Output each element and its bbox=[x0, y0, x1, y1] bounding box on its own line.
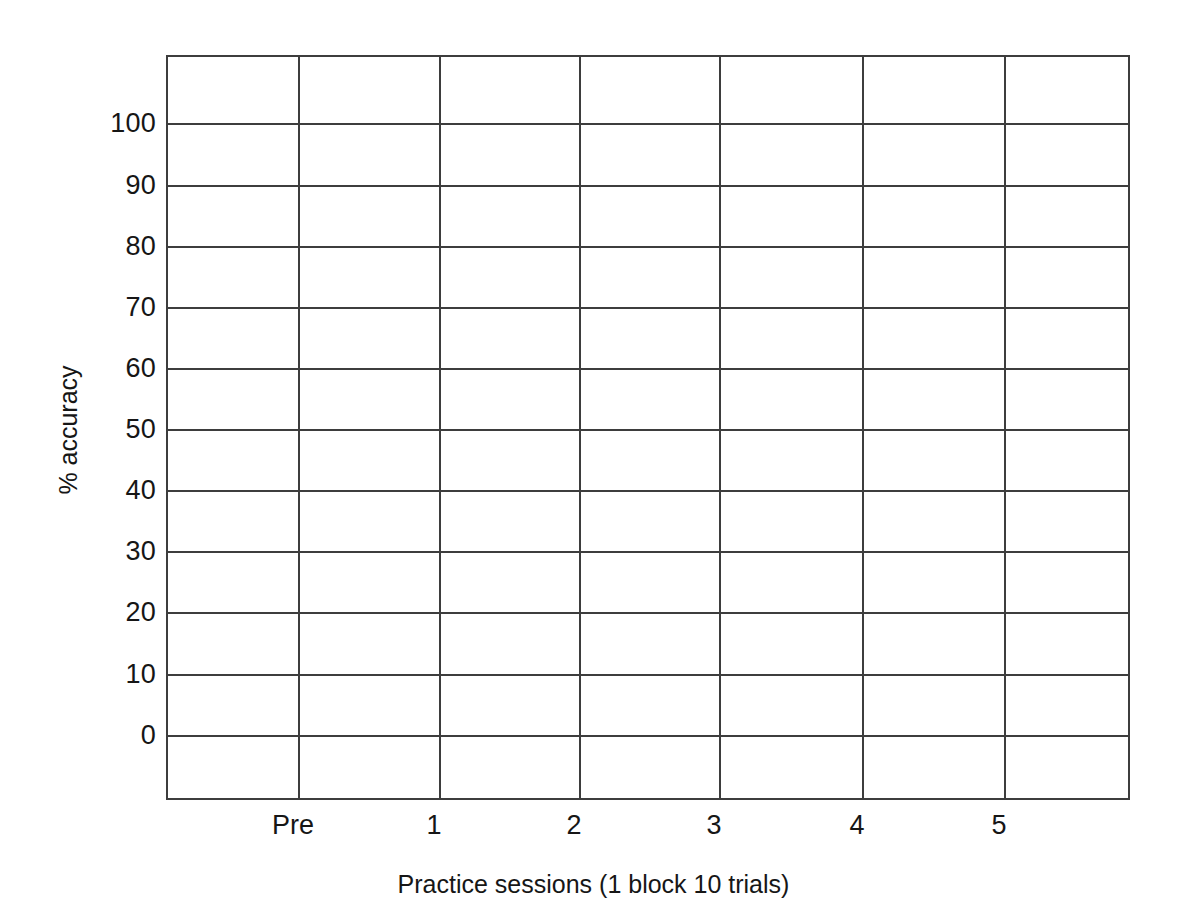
x-tick-label-2: 2 bbox=[566, 812, 581, 839]
x-tick-label-3: 3 bbox=[706, 812, 721, 839]
y-tick-label-80: 80 bbox=[126, 233, 156, 260]
y-tick-label-30: 30 bbox=[126, 538, 156, 565]
gridline-x-5 bbox=[1004, 57, 1006, 798]
gridline-y-100 bbox=[168, 123, 1128, 125]
x-tick-label-pre: Pre bbox=[272, 812, 314, 839]
gridline-y-20 bbox=[168, 612, 1128, 614]
y-tick-label-60: 60 bbox=[126, 355, 156, 382]
gridline-y-60 bbox=[168, 368, 1128, 370]
gridline-x-3 bbox=[719, 57, 721, 798]
plot-area bbox=[166, 55, 1130, 800]
y-tick-label-40: 40 bbox=[126, 477, 156, 504]
x-tick-label-4: 4 bbox=[849, 812, 864, 839]
gridline-y-40 bbox=[168, 490, 1128, 492]
y-tick-label-20: 20 bbox=[126, 599, 156, 626]
gridline-y-70 bbox=[168, 307, 1128, 309]
gridline-y-80 bbox=[168, 246, 1128, 248]
gridline-y-50 bbox=[168, 429, 1128, 431]
gridline-x-4 bbox=[862, 57, 864, 798]
gridline-y-10 bbox=[168, 674, 1128, 676]
y-tick-label-70: 70 bbox=[126, 294, 156, 321]
y-tick-label-90: 90 bbox=[126, 172, 156, 199]
y-axis-title: % accuracy bbox=[56, 365, 81, 494]
x-tick-label-1: 1 bbox=[426, 812, 441, 839]
x-axis-title: Practice sessions (1 block 10 trials) bbox=[0, 872, 1187, 897]
x-tick-label-5: 5 bbox=[991, 812, 1006, 839]
chart-figure: 100 90 80 70 60 50 40 30 20 10 0 Pre 1 2… bbox=[0, 0, 1187, 915]
gridline-x-1 bbox=[439, 57, 441, 798]
y-tick-label-0: 0 bbox=[141, 722, 156, 749]
gridline-x-2 bbox=[579, 57, 581, 798]
y-tick-label-10: 10 bbox=[126, 661, 156, 688]
gridline-x-pre bbox=[298, 57, 300, 798]
gridline-y-30 bbox=[168, 551, 1128, 553]
y-tick-label-100: 100 bbox=[110, 110, 156, 137]
y-tick-label-50: 50 bbox=[126, 416, 156, 443]
gridline-y-90 bbox=[168, 185, 1128, 187]
gridline-y-0 bbox=[168, 735, 1128, 737]
x-axis-tick-labels: Pre 1 2 3 4 5 bbox=[0, 812, 1187, 852]
